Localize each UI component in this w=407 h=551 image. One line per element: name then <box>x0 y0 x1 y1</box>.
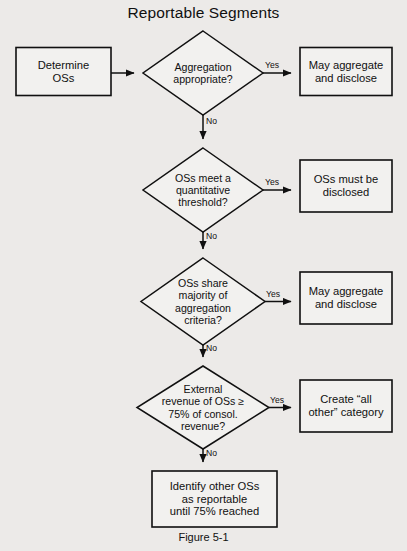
node-shape-d3 <box>141 258 265 345</box>
edge-label-no-3: No <box>206 344 217 353</box>
edge-label-yes-2: Yes <box>265 178 279 187</box>
edge-label-no-4: No <box>206 449 217 458</box>
node-shape-end <box>152 471 277 527</box>
node-shape-d4 <box>137 366 269 449</box>
flowchart-canvas: Reportable Segments <box>0 0 407 551</box>
edge-label-no-1: No <box>206 117 217 126</box>
node-shape-r1 <box>300 48 392 96</box>
node-shape-start <box>16 48 111 96</box>
node-shape-r2 <box>300 160 392 212</box>
node-shape-r4 <box>300 380 392 432</box>
figure-caption: Figure 5-1 <box>0 531 407 543</box>
edge-label-yes-3: Yes <box>266 290 280 299</box>
edge-label-yes-1: Yes <box>265 61 279 70</box>
edge-label-yes-4: Yes <box>270 396 284 405</box>
node-shape-d1 <box>143 31 263 115</box>
node-shape-d2 <box>143 148 263 232</box>
node-shape-r3 <box>300 272 392 324</box>
flowchart-graphics <box>0 0 407 551</box>
edge-label-no-2: No <box>206 232 217 241</box>
